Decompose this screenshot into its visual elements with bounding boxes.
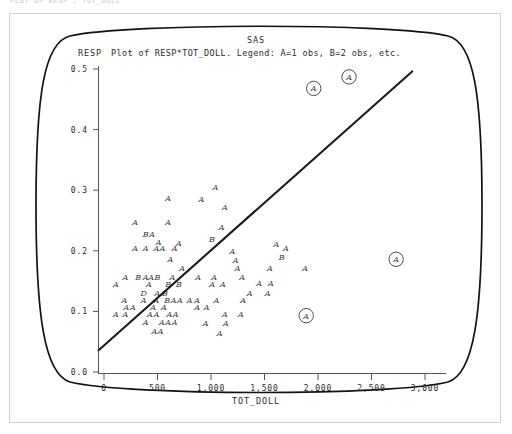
x-tick-label: 2,000 bbox=[304, 384, 333, 393]
data-point-label: A bbox=[129, 303, 136, 312]
x-axis-ticks bbox=[104, 374, 425, 380]
data-point-label: A bbox=[255, 279, 262, 288]
data-point-label: A bbox=[203, 303, 210, 312]
highlighted-point-label: A bbox=[345, 73, 352, 82]
crt-frame-path bbox=[36, 26, 482, 392]
x-tick-label: 0 bbox=[101, 384, 107, 393]
data-point-label: A bbox=[267, 279, 274, 288]
data-point-label: A bbox=[148, 230, 155, 239]
plot-title: Plot of RESP*TOT_DOLL. Legend: A=1 obs, … bbox=[111, 48, 401, 58]
data-point-label: A bbox=[186, 296, 193, 305]
sas-plot-screen: PLOT OF RESP ; TOT_DOLL SAS Plot of RESP… bbox=[0, 0, 512, 434]
y-tick-label: 0.4 bbox=[71, 126, 88, 135]
data-point-label: A bbox=[158, 244, 165, 253]
data-point-label: A bbox=[140, 296, 147, 305]
y-tick-label: 0.3 bbox=[71, 186, 88, 195]
data-point-label: A bbox=[264, 289, 271, 298]
data-point-label: A bbox=[122, 310, 129, 319]
data-point-label: A bbox=[142, 318, 149, 327]
data-point-label: A bbox=[131, 244, 138, 253]
data-point-label: A bbox=[266, 264, 273, 273]
x-tick-label: 3,000 bbox=[411, 384, 440, 393]
y-tick-label: 0.0 bbox=[71, 368, 88, 377]
highlighted-points: AAAA bbox=[299, 70, 403, 323]
data-point-label: A bbox=[237, 310, 244, 319]
data-point-label: A bbox=[211, 183, 218, 192]
data-point-label: A bbox=[112, 280, 119, 289]
data-point-label: A bbox=[194, 273, 201, 282]
data-point-label: B bbox=[134, 273, 141, 282]
data-point-label: A bbox=[239, 296, 246, 305]
y-tick-label: 0.5 bbox=[71, 65, 88, 74]
system-title: SAS bbox=[247, 35, 265, 45]
y-axis-label: RESP bbox=[78, 48, 102, 58]
x-axis-label: TOT_DOLL bbox=[232, 396, 280, 406]
data-point-label: A bbox=[212, 296, 219, 305]
data-point-label: A bbox=[158, 318, 165, 327]
highlighted-point-label: A bbox=[302, 312, 309, 321]
data-point-label: A bbox=[234, 264, 241, 273]
data-point-label: A bbox=[193, 303, 200, 312]
y-axis-tick-labels: 0.00.10.20.30.40.5 bbox=[71, 65, 88, 377]
data-point-label: A bbox=[238, 273, 245, 282]
x-tick-label: 500 bbox=[149, 384, 166, 393]
highlighted-point-label: A bbox=[310, 84, 317, 93]
data-point-label: A bbox=[157, 327, 164, 336]
data-point-label: A bbox=[218, 223, 225, 232]
data-point-label: A bbox=[272, 240, 279, 249]
data-point-label: A bbox=[216, 329, 223, 338]
data-point-label: A bbox=[246, 289, 253, 298]
data-point-label: B bbox=[208, 235, 215, 244]
x-tick-label: 1,500 bbox=[250, 384, 279, 393]
x-tick-label: 1,000 bbox=[197, 384, 226, 393]
data-point-label: A bbox=[122, 273, 129, 282]
data-point-label: A bbox=[301, 264, 308, 273]
data-point-label: B bbox=[278, 253, 285, 262]
y-tick-label: 0.1 bbox=[71, 307, 88, 316]
data-point-label: A bbox=[170, 296, 177, 305]
data-point-label: A bbox=[112, 310, 119, 319]
data-point-label: A bbox=[142, 244, 149, 253]
data-point-label: A bbox=[208, 280, 215, 289]
y-tick-label: 0.2 bbox=[71, 247, 88, 256]
data-point-label: A bbox=[221, 310, 228, 319]
data-point-label: A bbox=[178, 264, 185, 273]
data-point-label: A bbox=[150, 327, 157, 336]
data-point-label: A bbox=[197, 195, 204, 204]
data-point-label: A bbox=[202, 319, 209, 328]
scatter-points: AAAAAAABAAABAAAAAAAAAAAABAAABAABAAAAAABB… bbox=[112, 183, 308, 337]
data-point-label: A bbox=[282, 244, 289, 253]
data-point-label: B bbox=[142, 230, 149, 239]
x-tick-label: 2,500 bbox=[357, 384, 386, 393]
data-point-label: A bbox=[164, 194, 171, 203]
data-point-label: A bbox=[171, 318, 178, 327]
data-point-label: A bbox=[166, 255, 173, 264]
data-point-label: B bbox=[154, 273, 161, 282]
highlighted-point-label: A bbox=[392, 255, 399, 264]
data-point-label: A bbox=[219, 280, 226, 289]
data-point-label: A bbox=[176, 296, 183, 305]
data-point-label: A bbox=[164, 318, 171, 327]
data-point-label: A bbox=[171, 244, 178, 253]
data-point-label: A bbox=[221, 203, 228, 212]
data-point-label: A bbox=[229, 247, 236, 256]
data-point-label: A bbox=[131, 218, 138, 227]
data-point-label: A bbox=[222, 319, 229, 328]
plot-canvas: SAS Plot of RESP*TOT_DOLL. Legend: A=1 o… bbox=[0, 0, 512, 434]
regression-line bbox=[99, 71, 413, 350]
data-point-label: A bbox=[164, 218, 171, 227]
